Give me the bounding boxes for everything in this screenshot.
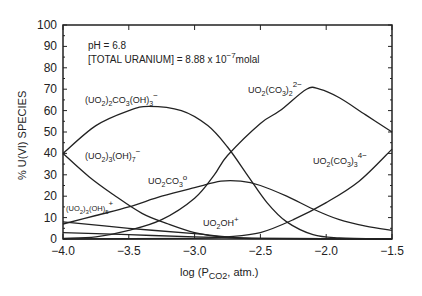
y-tick-label: 80 [44,61,58,75]
y-tick-label: 10 [44,211,58,225]
total-uranium-annotation: [TOTAL URANIUM] = 8.88 x 10−7molal [88,51,260,65]
x-tick-label: −2.0 [314,244,338,258]
label-uo2co3: UO2CO3o [148,173,188,188]
label-uo2-3-oh5: (UO2)3(OH)5+ [66,199,114,215]
y-tick-label: 40 [44,146,58,160]
label-uo2-3-oh7: (UO2)3(OH)7− [85,147,141,163]
y-tick-label: 60 [44,104,58,118]
y-tick-label: 50 [44,125,58,139]
label-uo2oh: UO2OH+ [203,215,239,230]
y-axis-label: % U(VI) SPECIES [16,91,28,180]
y-tick-label: 30 [44,168,58,182]
label-uo2-co3-2: UO2(CO3)22− [248,80,302,97]
x-tick-label: −1.5 [380,244,404,258]
y-tick-label: 90 [44,39,58,53]
speciation-chart: 0102030405060708090100 −4.0−3.5−3.0−2.5−… [0,0,422,296]
y-tick-label: 70 [44,82,58,96]
x-tick-label: −3.5 [117,244,141,258]
x-tick-label: −4.0 [51,244,75,258]
x-tick-label: −3.0 [183,244,207,258]
label-uo2-2-co3-oh3: (UO2)2CO3(OH)3− [85,91,158,107]
label-uo2-co3-3: UO2(CO3)34− [313,151,367,168]
y-tick-label: 20 [44,189,58,203]
x-axis-label: log (PCO2, atm.) [180,266,258,281]
ph-annotation: pH = 6.8 [88,40,127,51]
y-tick-label: 100 [37,18,57,32]
x-tick-label: −2.5 [249,244,273,258]
